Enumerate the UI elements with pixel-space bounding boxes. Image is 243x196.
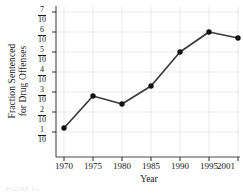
y-tick-numerator: 3 <box>37 86 47 95</box>
y-tick-label-1-10: 1 10 <box>30 126 54 144</box>
y-tick-label-6-10: 6 10 <box>30 26 54 44</box>
y-tick-denominator: 10 <box>37 136 47 145</box>
y-tick-label-5-10: 5 10 <box>30 46 54 64</box>
data-point-1985 <box>148 83 153 88</box>
y-axis-title-line-1: Fraction Sentenced <box>7 11 18 151</box>
data-point-1975 <box>90 93 95 98</box>
y-tick-label-7-10: 7 10 <box>30 6 54 24</box>
y-tick-numerator: 6 <box>37 26 47 35</box>
data-point-1990 <box>177 49 182 54</box>
y-tick-numerator: 7 <box>37 6 47 15</box>
y-tick-label-2-10: 2 10 <box>30 106 54 124</box>
y-tick-denominator: 10 <box>37 116 47 125</box>
y-tick-numerator: 1 <box>37 126 47 135</box>
chart-figure: Fraction Sentenced for Drug Offenses 7 1… <box>0 0 243 196</box>
data-point-1970 <box>61 125 66 130</box>
y-tick-denominator: 10 <box>37 76 47 85</box>
data-point-2001 <box>235 35 240 40</box>
y-tick-numerator: 4 <box>37 66 47 75</box>
y-tick-label-3-10: 3 10 <box>30 86 54 104</box>
y-tick-denominator: 10 <box>37 16 47 25</box>
data-point-1980 <box>119 101 124 106</box>
grid-horizontal <box>56 12 239 132</box>
y-tick-numerator: 5 <box>37 46 47 55</box>
y-axis-title-line-2: for Drug Offenses <box>18 11 29 151</box>
y-tick-denominator: 10 <box>37 56 47 65</box>
x-tick-label-2001: 2001 <box>209 161 243 171</box>
y-tick-denominator: 10 <box>37 96 47 105</box>
data-point-1995 <box>206 29 211 34</box>
figure-caption: FIGURE 4.2 <box>6 186 40 192</box>
grid-vertical <box>64 6 238 157</box>
y-tick-numerator: 2 <box>37 106 47 115</box>
y-tick-denominator: 10 <box>37 36 47 45</box>
x-axis-title: Year <box>55 174 243 184</box>
y-tick-label-4-10: 4 10 <box>30 66 54 84</box>
